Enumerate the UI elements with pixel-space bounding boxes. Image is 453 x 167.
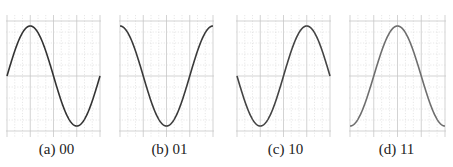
chart-panel-b: (b) 01: [113, 0, 226, 167]
chart-a-caption: (a) 00: [0, 141, 113, 158]
chart-panel-a: (a) 00: [0, 0, 113, 167]
chart-b-plot: [113, 0, 226, 140]
chart-panel-d: (d) 11: [340, 0, 453, 167]
grid: [349, 15, 446, 137]
grid: [119, 15, 214, 137]
chart-d-caption: (d) 11: [340, 141, 453, 158]
chart-a-plot: [0, 0, 113, 140]
chart-c-caption: (c) 10: [229, 141, 342, 158]
chart-b-caption: (b) 01: [113, 141, 226, 158]
chart-d-plot: [340, 0, 453, 140]
chart-panel-c: (c) 10: [229, 0, 342, 167]
chart-c-plot: [229, 0, 342, 140]
